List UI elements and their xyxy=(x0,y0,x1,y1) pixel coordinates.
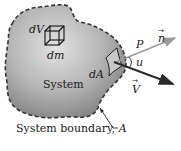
dm-label: dm xyxy=(47,49,64,62)
n-vector-arrow-icon: → xyxy=(158,27,164,35)
V-vector-arrow-icon: → xyxy=(132,77,138,85)
angle-u-label: u xyxy=(136,56,143,69)
system-label: System xyxy=(43,78,84,91)
angle-arc xyxy=(129,57,132,68)
dA-label: dA xyxy=(89,68,104,81)
P-label: P xyxy=(135,38,144,51)
boundary-label: System boundary, A xyxy=(16,122,127,135)
control-volume-diagram: dV dm System dA P n → u V → System bound… xyxy=(0,0,181,151)
normal-vector-arrow xyxy=(116,38,175,62)
dV-label: dV xyxy=(29,23,45,36)
